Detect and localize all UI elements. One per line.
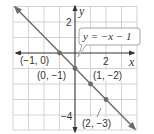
point-label-d: (2, −3) bbox=[82, 118, 111, 129]
leader-line bbox=[97, 108, 101, 117]
point-label-a: (−1, 0) bbox=[20, 55, 49, 66]
point-label-c: (1, −2) bbox=[93, 70, 122, 81]
point-label-b: (0, −1) bbox=[37, 70, 66, 81]
y-axis-label: y bbox=[78, 4, 85, 18]
point-0-neg1 bbox=[73, 66, 78, 71]
y-tick-2: 2 bbox=[66, 17, 72, 28]
point-neg1-0 bbox=[57, 51, 62, 56]
x-tick-2: 2 bbox=[103, 56, 109, 67]
coordinate-plane: y x 2 2 −4 (−1, 0) (0, −1) (1, −2) (2, −… bbox=[0, 0, 154, 134]
x-axis-label: x bbox=[128, 55, 135, 69]
point-1-neg2 bbox=[88, 82, 93, 87]
point-2-neg3 bbox=[104, 97, 109, 102]
equation-label: y = −x − 1 bbox=[82, 30, 132, 42]
y-tick-neg4: −4 bbox=[61, 111, 73, 122]
